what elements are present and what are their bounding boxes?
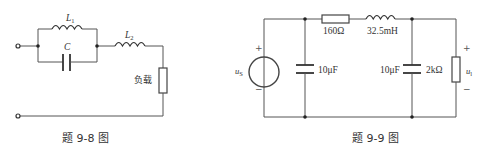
junction-dot [303,17,307,21]
label-l1: L1 [66,14,75,25]
inductor-32-5mh-icon [366,16,395,20]
label-load: 负载 [134,76,152,85]
label-ul: ul [466,67,472,78]
load-resistor-icon [159,68,167,93]
input-terminal-top [16,44,20,48]
label-rl-2k: 2kΩ [426,66,443,76]
caption-figure-9-9: 题 9-9 图 [352,133,399,144]
label-c1-10uf: 10μF [318,66,338,76]
label-us: uS [235,67,243,78]
caption-figure-9-8: 题 9-8 图 [62,133,109,144]
source-plus-sign: + [255,44,263,53]
load-resistor-2k-icon [452,57,460,82]
label-r-160: 160Ω [323,27,344,37]
label-c: C [64,43,70,53]
label-c2-10uf: 10μF [380,66,400,76]
inductor-l1-icon [52,26,82,30]
junction-dot [36,44,40,48]
label-l-32-5mh: 32.5mH [367,27,398,37]
source-minus-sign: − [255,85,263,94]
junction-dot [303,115,307,119]
figure-9-8-circuit [16,26,167,119]
junction-dot [410,115,414,119]
output-plus-sign: + [463,44,471,53]
label-l2: L2 [125,31,134,42]
inductor-l2-icon [115,43,145,47]
output-minus-sign: − [463,85,471,94]
junction-dot [95,44,99,48]
resistor-160-icon [322,15,349,23]
junction-dot [410,17,414,21]
input-terminal-bottom [16,114,20,118]
